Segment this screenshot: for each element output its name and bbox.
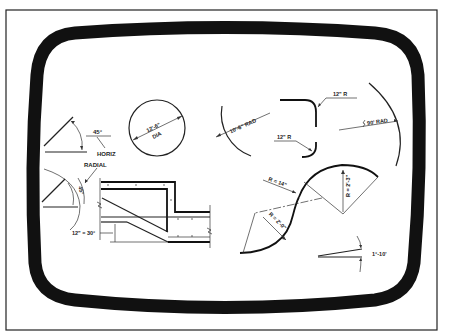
drawing-canvas: 45° HORIZ 12'-6" DIA 10'-6" RAD 12" R 12… [0,0,450,335]
fillet-bottom-radius: 12" R [277,134,291,140]
slope-ratio-label: 12" = 30° [72,230,95,236]
fillet-top-radius: 12" R [333,91,347,97]
radial-label: RADIAL [84,162,107,168]
reverse-curve-radius-b: R = 2'-3" [345,175,351,197]
horiz-label: HORIZ [97,151,116,157]
angle-label-45: 45° [93,129,103,135]
small-angle-label: 1°-10' [372,251,387,257]
